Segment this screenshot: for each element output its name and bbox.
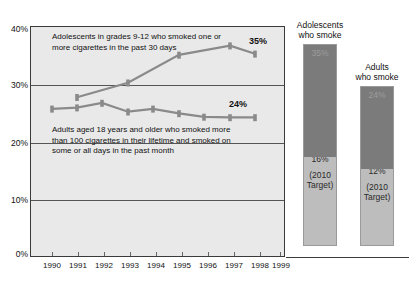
adults-target-note-1: (2010: [364, 182, 390, 192]
adults-bar: Adults who smoke 12% (2010 Target) 24%: [348, 62, 406, 246]
adults-current-segment: 24%: [361, 87, 393, 169]
y-tick-30: 30%: [2, 85, 28, 95]
adults-end-label: 24%: [229, 99, 247, 109]
adults-current-label: 24%: [368, 90, 385, 100]
adolescents-current-label: 35%: [311, 48, 328, 58]
adolescents-bar-column: 16% (2010 Target) 35%: [303, 44, 337, 246]
adult-annotation: Adults aged 18 years and older who smoke…: [52, 125, 234, 157]
adults-bar-caption-line2: who smoke: [348, 72, 406, 82]
adults-bar-caption-line1: Adults: [348, 62, 406, 72]
adolescents-target-note-1: (2010: [307, 170, 333, 180]
adolescents-bar-caption-line2: who smoke: [290, 30, 350, 40]
adolescents-bar-caption-line1: Adolescents: [290, 20, 350, 30]
adolescents-bar: Adolescents who smoke 16% (2010 Target) …: [290, 20, 350, 246]
bars-baseline: [286, 257, 409, 258]
chart-page: 40% 30% 20% 10% 0%: [0, 0, 409, 287]
adolescents-target-segment: 16% (2010 Target): [304, 151, 336, 245]
adolescent-annotation: Adolescents in grades 9-12 who smoked on…: [52, 32, 224, 53]
adolescents-target-note-2: Target): [307, 180, 333, 190]
x-label-1999: 1999: [264, 261, 298, 270]
adolescents-end-label: 35%: [249, 36, 267, 46]
y-tick-40: 40%: [2, 29, 28, 39]
plot-inner: 40% 30% 20% 10% 0%: [31, 27, 284, 256]
y-tick-0: 0%: [2, 254, 28, 264]
line-chart-plot-area: 40% 30% 20% 10% 0%: [30, 26, 285, 257]
series-adolescents-line: [77, 46, 255, 98]
adolescents-current-segment: 35%: [304, 45, 336, 157]
adults-bar-column: 12% (2010 Target) 24%: [360, 86, 394, 246]
y-tick-10: 10%: [2, 200, 28, 210]
adults-target-segment: 12% (2010 Target): [361, 163, 393, 245]
y-tick-20: 20%: [2, 143, 28, 153]
adults-target-note-2: Target): [364, 192, 390, 202]
